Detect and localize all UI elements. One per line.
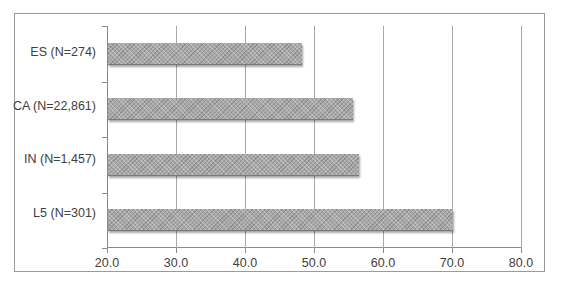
y-tick-mark [102,137,107,138]
x-tick-label: 50.0 [302,256,326,270]
x-tick-mark [521,248,522,253]
y-tick-mark [102,248,107,249]
x-tick-mark [245,248,246,253]
bar-es [108,43,302,65]
category-label-in: IN (N=1,457) [24,152,96,166]
plot-area [107,26,521,248]
y-tick-mark [102,193,107,194]
x-tick-mark [107,248,108,253]
category-label-ca: CA (N=22,861) [13,99,96,113]
x-tick-mark [383,248,384,253]
x-tick-mark [176,248,177,253]
y-tick-mark [102,26,107,27]
x-tick-label: 80.0 [509,256,533,270]
bar-in [108,154,359,176]
bar-ca [108,98,353,120]
x-tick-label: 70.0 [440,256,464,270]
gridline [521,26,522,248]
x-tick-label: 40.0 [233,256,257,270]
x-tick-label: 20.0 [95,256,119,270]
bar-l5 [108,209,453,231]
category-label-l5: L5 (N=301) [33,206,96,220]
x-tick-label: 30.0 [164,256,188,270]
x-tick-label: 60.0 [371,256,395,270]
x-tick-mark [314,248,315,253]
y-tick-mark [102,82,107,83]
x-tick-mark [452,248,453,253]
category-label-es: ES (N=274) [30,45,96,59]
